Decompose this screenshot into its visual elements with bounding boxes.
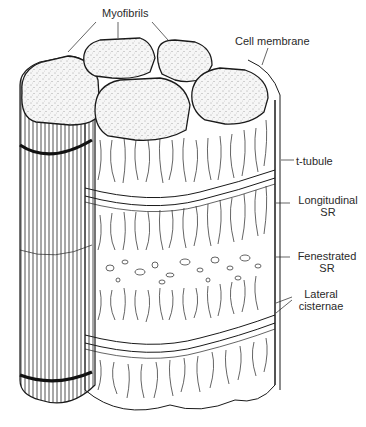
label-t-tubule: t-tubule bbox=[296, 155, 333, 167]
label-lateral-cisternae: Lateral cisternae bbox=[293, 288, 349, 312]
longitudinal-sr-lower bbox=[98, 276, 258, 322]
label-fenestrated-sr-line1: Fenestrated bbox=[291, 250, 363, 262]
label-lateral-cisternae-line1: Lateral bbox=[293, 288, 349, 300]
label-longitudinal-sr-line2: SR bbox=[291, 206, 365, 218]
label-longitudinal-sr-line1: Longitudinal bbox=[291, 194, 365, 206]
t-tubule-band-lower bbox=[85, 315, 275, 358]
label-longitudinal-sr: Longitudinal SR bbox=[291, 194, 365, 218]
label-cell-membrane: Cell membrane bbox=[235, 35, 310, 47]
longitudinal-sr-bottom bbox=[98, 338, 267, 398]
label-fenestrated-sr-line2: SR bbox=[291, 262, 363, 274]
label-lateral-cisternae-line2: cisternae bbox=[293, 300, 349, 312]
label-myofibrils: Myofibrils bbox=[102, 7, 148, 19]
label-fenestrated-sr: Fenestrated SR bbox=[291, 250, 363, 274]
fenestrated-sr bbox=[106, 255, 261, 284]
